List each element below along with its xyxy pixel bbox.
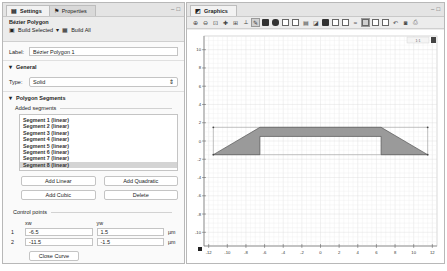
y-tick-label: 0 [199,139,202,144]
y-tick-label: 6 [199,84,202,89]
add-cubic-button[interactable]: Add Cubic [21,190,96,200]
x-tick-label: 2 [338,250,341,255]
select-domains-icon[interactable] [262,19,269,26]
x-tick-label: 10 [411,250,416,255]
grid-icon[interactable]: ≈ [352,19,359,26]
properties-icon: ⚑ [54,8,59,14]
maximize-icon[interactable]: □ [176,6,180,12]
delete-button[interactable]: Delete [104,190,179,200]
tab-graphics[interactable]: ◩ Graphics [190,5,237,16]
tab-properties-label: Properties [62,8,87,14]
graphics-toolbar: ⊕ ⊖ ⊡ ✚ ⊞ ⟂ ✎ ▤ ◪ ≈ ↶ ◙ ⎙ [187,17,444,29]
col-x-header: xw [25,220,93,226]
select-points-icon[interactable] [292,19,299,26]
y-tick-label: -10 [195,230,202,235]
geometry-plot[interactable]: 1086420-2-4-6-8-10-12-10-8-6-4-202468101… [187,30,444,263]
y-tick-label: 10 [196,47,201,52]
yw-input[interactable]: 1.5 [97,228,165,236]
type-select[interactable]: Solid ⇕ [29,77,178,87]
graphics-icon: ◩ [195,8,201,14]
polygon-section-header[interactable]: ▾ Polygon Segments [3,91,184,104]
general-section-header[interactable]: ▾ General [3,60,184,73]
settings-tabbar: ▤ Settings ⚑ Properties –□ [3,3,184,17]
add-linear-button[interactable]: Add Linear [21,176,96,186]
scene-light-icon[interactable] [362,19,369,26]
control-points-title: Control points [13,209,47,215]
view-toggle-icon[interactable] [382,19,389,26]
screenshot-icon[interactable]: ◙ [402,19,409,26]
select-edges-icon[interactable] [282,19,289,26]
minimize-icon[interactable]: – [431,6,434,12]
zoom-in-icon[interactable]: ⊕ [192,19,199,26]
close-curve-button[interactable]: Close Curve [29,251,79,261]
control-point-row: 1 -6.5 1.5 µm [11,228,178,236]
x-tick-label: 8 [394,250,397,255]
tab-graphics-label: Graphics [204,8,228,14]
xw-input[interactable]: -11.5 [25,238,93,246]
maximize-icon[interactable]: □ [436,6,440,12]
undo-icon[interactable]: ↶ [392,19,399,26]
add-quadratic-button[interactable]: Add Quadratic [104,176,179,186]
x-tick-label: 0 [319,250,322,255]
type-caption: Type: [9,79,25,85]
axis-orientation-icon[interactable]: ⟂ [242,19,249,26]
x-tick-label: 12 [430,250,435,255]
graphics-canvas[interactable]: 1086420-2-4-6-8-10-12-10-8-6-4-202468101… [187,30,444,263]
hide-icon[interactable]: ◪ [312,19,319,26]
axis-triad-icon [198,247,202,251]
x-tick-label: -10 [224,250,231,255]
x-tick-label: -2 [300,250,304,255]
minimize-icon[interactable]: – [171,6,174,12]
show-icon[interactable] [322,19,329,26]
settings-body: Label: Bézier Polygon 1 ▾ General Type: … [3,41,184,263]
settings-window: ▤ Settings ⚑ Properties –□ Bézier Polygo… [2,2,185,264]
xw-input[interactable]: -6.5 [25,228,93,236]
settings-icon: ▤ [11,8,17,14]
control-point [427,126,429,128]
y-tick-label: 2 [199,120,202,125]
zoom-selected-icon[interactable]: ✚ [222,19,229,26]
tab-properties[interactable]: ⚑ Properties [49,5,96,16]
control-point-row: 2 -11.5 -1.5 µm [11,238,178,246]
select-objects-icon[interactable]: ✎ [252,19,259,26]
x-tick-label: 6 [375,250,378,255]
print-icon[interactable]: ⎙ [412,19,419,26]
wireframe-icon[interactable]: ▤ [302,19,309,26]
general-section-title: General [16,64,36,70]
y-tick-label: -8 [197,212,201,217]
added-segments-label: Added segments [15,105,56,111]
yw-input[interactable]: -1.5 [97,238,165,246]
build-selected-button[interactable]: Build Selected [18,27,53,33]
view-settings-icon [431,37,436,43]
select-boundaries-icon[interactable] [272,19,279,26]
list-item-selected[interactable]: Segment 8 (linear) [20,162,177,168]
zoom-box-icon[interactable]: ⊡ [212,19,219,26]
label-input[interactable]: Bézier Polygon 1 [29,47,178,56]
zoom-out-icon[interactable]: ⊖ [202,19,209,26]
y-tick-label: -2 [197,157,201,162]
polygon-section-title: Polygon Segments [16,95,66,101]
row-index: 2 [11,239,21,245]
view-icon[interactable] [332,19,339,26]
build-all-button[interactable]: Build All [71,27,91,33]
x-tick-label: -8 [244,250,248,255]
chevron-down-icon[interactable]: ▾ [56,27,59,33]
control-point [212,126,214,128]
label-caption: Label: [9,49,25,55]
transparency-icon[interactable] [342,19,349,26]
segments-list[interactable]: Segment 1 (linear) Segment 2 (linear) Se… [19,114,178,171]
build-all-icon: ▦ [62,27,68,33]
y-tick-label: 4 [199,102,202,107]
graphics-window: ◩ Graphics –□ ⊕ ⊖ ⊡ ✚ ⊞ ⟂ ✎ ▤ ◪ ≈ ↶ ◙ ⎙ … [186,2,445,264]
zoom-extents-icon[interactable]: ⊞ [232,19,239,26]
reset-view-icon[interactable] [372,19,379,26]
unit-label: µm [168,239,178,245]
col-y-header: yw [97,220,165,226]
x-tick-label: 4 [357,250,360,255]
added-segments-header: Added segments [3,104,184,112]
y-tick-label: -4 [197,175,201,180]
node-header: Bézier Polygon ▣ Build Selected ▾ ▦ Buil… [3,17,184,35]
y-tick-label: 8 [199,65,202,70]
graphics-tabbar: ◩ Graphics –□ [187,3,444,17]
tab-settings[interactable]: ▤ Settings [6,5,51,16]
